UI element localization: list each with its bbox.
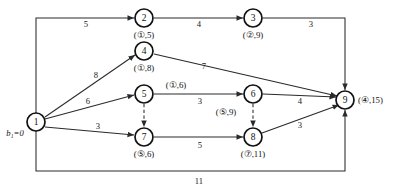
edge-weight-1-4: 8: [94, 70, 98, 80]
node-6-label: (⑤,9): [216, 107, 237, 117]
node-7-label: (⑤,6): [134, 149, 155, 159]
node-4[interactable]: 4: [135, 42, 153, 60]
node-3-label: (②,9): [243, 30, 264, 40]
node-7-number: 7: [142, 132, 147, 142]
edge-1-to-7: 3: [45, 121, 134, 135]
edge-weight-1-9: 11: [195, 176, 203, 186]
edge-weight-4-9: 7: [202, 61, 207, 71]
edge-weight-2-3: 4: [197, 19, 202, 29]
node-6-number: 6: [251, 89, 256, 99]
edge-1-to-4: 8: [45, 55, 135, 117]
source-potential-label: b₁=0: [6, 128, 24, 138]
node-1-number: 1: [34, 117, 39, 127]
edge-8-to-9: 3: [262, 105, 339, 133]
edge-5-to-6: 3: [154, 94, 243, 106]
node-3[interactable]: 3: [244, 9, 262, 27]
node-7[interactable]: 7: [135, 128, 153, 146]
node-3-number: 3: [251, 13, 256, 23]
edge-weight-8-9: 3: [298, 120, 302, 130]
node-8[interactable]: 8: [244, 128, 262, 146]
node-1[interactable]: 1: [27, 113, 45, 131]
network-diagram-figure: 5 4 3 8 7 6 3: [0, 0, 404, 188]
edge-6-to-9: 4: [263, 94, 336, 106]
edge-weight-7-8: 5: [198, 140, 202, 150]
node-8-label: (⑦,11): [241, 149, 266, 159]
node-4-label: (①,8): [134, 63, 155, 73]
edge-weight-5-6: 3: [198, 96, 202, 106]
node-5-number: 5: [142, 89, 147, 99]
node-6[interactable]: 6: [244, 85, 262, 103]
edge-weight-1-5: 6: [86, 96, 91, 106]
edge-1-to-5: 6: [45, 95, 134, 119]
node-5[interactable]: 5: [135, 85, 153, 103]
node-5-label: (①,6): [166, 80, 187, 90]
node-9[interactable]: 9: [336, 91, 354, 109]
edge-7-to-8: 5: [154, 137, 243, 150]
node-4-number: 4: [142, 46, 147, 56]
node-2[interactable]: 2: [135, 9, 153, 27]
edge-weight-1-2: 5: [84, 19, 88, 29]
node-9-number: 9: [343, 95, 348, 105]
node-2-number: 2: [142, 13, 147, 23]
edge-weight-3-9: 3: [309, 19, 313, 29]
node-9-label: (④,15): [358, 95, 383, 105]
graph-canvas: 5 4 3 8 7 6 3: [0, 0, 404, 188]
node-2-label: (①,5): [134, 30, 155, 40]
edge-2-to-3: 4: [154, 18, 243, 29]
edge-weight-1-7: 3: [96, 121, 100, 131]
edge-3-to-9: 3: [263, 18, 345, 90]
edge-weight-6-9: 4: [298, 96, 303, 106]
node-8-number: 8: [251, 132, 256, 142]
